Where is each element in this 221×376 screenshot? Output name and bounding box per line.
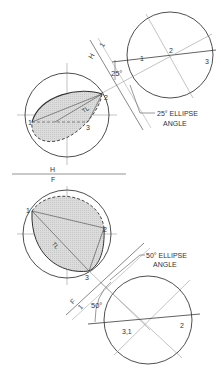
- fv-point-3: 3: [85, 274, 89, 281]
- fold-label-lower: F: [51, 176, 55, 183]
- fold-label-1: 1: [98, 41, 106, 48]
- callout-50-line1: 50° ELLIPSE: [146, 252, 187, 259]
- point-1-label: 1: [140, 55, 144, 62]
- angle-50-text: 50°: [91, 301, 102, 310]
- fv-point-1: 1: [26, 207, 30, 214]
- edge-line-123: [112, 50, 216, 62]
- aux-axis-perp: [146, 14, 193, 98]
- tv-point-2: 2: [104, 94, 108, 101]
- top-view: 1 2 3 TL: [17, 63, 117, 165]
- angle-25-text: 25°: [111, 69, 122, 78]
- aux-point-2: 2: [180, 322, 184, 329]
- fv-point-2: 2: [103, 226, 107, 233]
- tv-point-3: 3: [86, 124, 90, 131]
- tv-point-1: 1: [28, 119, 32, 126]
- projection-line: [104, 34, 212, 92]
- fold-label-f: F: [69, 298, 77, 306]
- ellipse-construction-diagram: 1 2 3 H 1 25° 25° ELLIPSE ANGLE 1 2 3 TL: [0, 0, 221, 376]
- aux-point-31: 3,1: [122, 328, 132, 335]
- callout-25-line1: 25° ELLIPSE: [157, 110, 198, 117]
- fold-label-h: H: [87, 52, 96, 60]
- aux-view-50: 3,1 2: [88, 276, 200, 364]
- callout-25: 25° ELLIPSE ANGLE: [130, 85, 198, 127]
- aux-circle-bottom: [104, 276, 192, 364]
- callout-25-line2: ANGLE: [163, 120, 187, 127]
- point-3-label: 3: [205, 58, 209, 65]
- front-ellipse-shaded: [32, 196, 104, 271]
- fold-line-hf: H F: [12, 166, 126, 183]
- point-2-label: 2: [169, 47, 173, 54]
- fold-label-upper: H: [50, 166, 55, 173]
- callout-50-line2: ANGLE: [153, 261, 177, 268]
